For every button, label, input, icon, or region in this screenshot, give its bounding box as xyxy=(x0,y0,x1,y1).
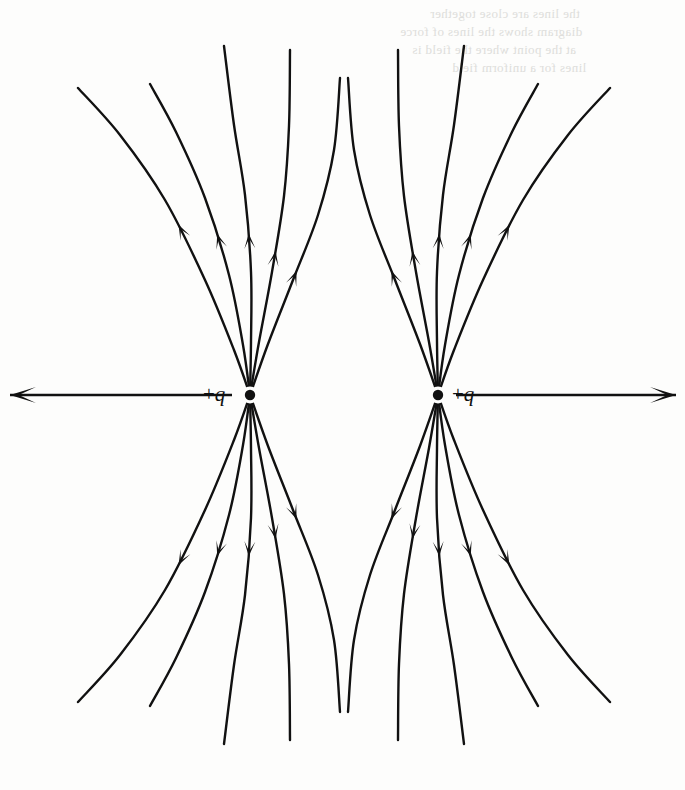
charge-right-sign: + xyxy=(452,382,464,406)
field-line xyxy=(250,395,290,740)
field-line xyxy=(438,395,610,702)
charge-label-left: +q xyxy=(203,384,225,405)
field-line xyxy=(224,46,251,395)
field-line xyxy=(250,50,290,395)
charge-dot-left xyxy=(245,390,255,400)
field-line xyxy=(78,88,250,395)
field-line-canvas xyxy=(0,0,685,790)
field-line xyxy=(348,78,438,395)
charge-left-sign: + xyxy=(203,382,215,406)
charge-right-symbol: q xyxy=(464,382,475,406)
field-line-figure: the lines are close togetherdiagram show… xyxy=(0,0,685,790)
field-line xyxy=(438,88,610,395)
field-line xyxy=(78,395,250,702)
charge-label-right: +q xyxy=(452,384,474,405)
field-line xyxy=(250,78,340,395)
field-line xyxy=(437,395,464,744)
axis-arrows-group xyxy=(10,387,676,403)
field-line xyxy=(398,395,438,740)
field-line xyxy=(437,46,464,395)
field-line xyxy=(250,395,340,712)
charge-left-symbol: q xyxy=(215,382,226,406)
field-line xyxy=(348,395,438,712)
field-line xyxy=(398,50,438,395)
field-line xyxy=(224,395,251,744)
charge-dot-right xyxy=(433,390,443,400)
charge-dots-group xyxy=(242,387,447,404)
